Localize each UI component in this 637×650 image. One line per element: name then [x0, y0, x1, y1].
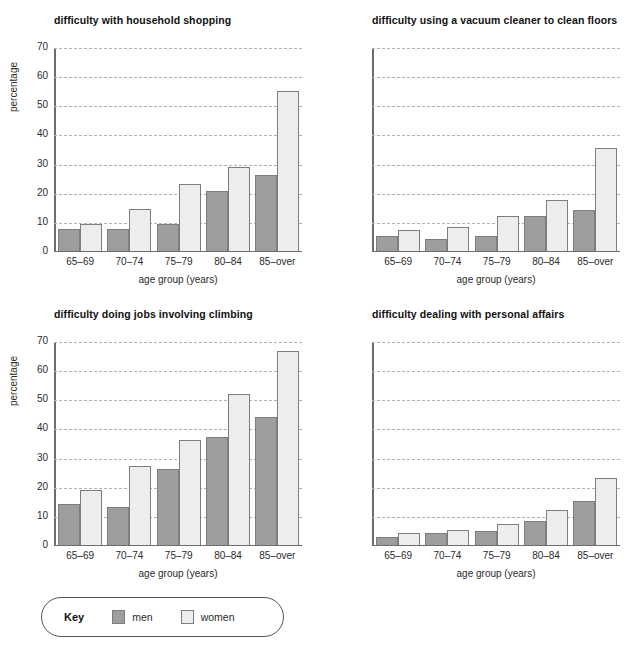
bar-women	[277, 91, 299, 250]
bar-women	[398, 533, 420, 545]
bar-group	[423, 342, 472, 545]
chart-panel-0: difficulty with household shoppingpercen…	[0, 0, 318, 294]
y-tick-label: 20	[37, 481, 48, 492]
key-label-men: men	[132, 611, 152, 623]
bar-women	[228, 394, 250, 544]
y-axis-label: percentage	[8, 356, 19, 406]
chart-title: difficulty doing jobs involving climbing	[54, 308, 253, 320]
x-tick-label: 85–over	[253, 256, 302, 267]
x-axis-label: age group (years)	[54, 274, 302, 285]
bar-women	[228, 167, 250, 251]
bar-group	[105, 342, 154, 545]
y-tick-label: 0	[42, 539, 48, 550]
key-swatch-women-icon	[181, 610, 194, 624]
bar-group	[154, 342, 203, 545]
x-tick-label: 80–84	[203, 550, 252, 561]
bar-group	[203, 48, 252, 251]
chart-grid: difficulty with household shoppingpercen…	[0, 0, 637, 588]
x-tick-label: 80–84	[521, 550, 570, 561]
x-tick-labels: 65–6970–7475–7980–8485–over	[374, 550, 621, 561]
plot-area: 010203040506070	[372, 342, 620, 546]
bar-women	[447, 227, 469, 250]
chart-panel-2: difficulty doing jobs involving climbing…	[0, 294, 318, 588]
bar-women	[497, 524, 519, 544]
chart-title: difficulty dealing with personal affairs	[372, 308, 564, 320]
bar-women	[595, 148, 617, 251]
x-tick-label: 75–79	[472, 256, 521, 267]
x-axis-label: age group (years)	[54, 568, 302, 579]
x-tick-label: 80–84	[521, 256, 570, 267]
x-axis-line	[54, 545, 302, 547]
chart-title: difficulty using a vacuum cleaner to cle…	[372, 14, 617, 26]
bar-group	[105, 48, 154, 251]
y-tick-label: 40	[37, 422, 48, 433]
bar-men	[573, 210, 595, 251]
bar-group	[253, 48, 302, 251]
bar-group	[203, 342, 252, 545]
bar-men	[524, 521, 546, 544]
chart-panel-1: difficulty using a vacuum cleaner to cle…	[318, 0, 636, 294]
x-tick-label: 65–69	[56, 550, 105, 561]
bar-men	[107, 507, 129, 545]
x-tick-label: 65–69	[56, 256, 105, 267]
bar-men	[524, 216, 546, 251]
bar-women	[398, 230, 420, 250]
bar-men	[58, 504, 80, 545]
bar-men	[157, 469, 179, 544]
bar-women	[595, 478, 617, 545]
key-swatch-men-icon	[112, 610, 125, 624]
plot-area: 010203040506070	[54, 342, 302, 546]
y-tick-label: 70	[37, 41, 48, 52]
chart-key-legend: Key men women	[41, 597, 284, 637]
bar-women	[129, 466, 151, 544]
bar-group	[521, 342, 570, 545]
bar-group	[253, 342, 302, 545]
x-tick-label: 85–over	[571, 256, 620, 267]
chart-panel-3: difficulty dealing with personal affairs…	[318, 294, 636, 588]
bar-groups	[374, 342, 621, 545]
y-tick-label: 60	[37, 364, 48, 375]
x-tick-label: 70–74	[105, 550, 154, 561]
bar-group	[374, 48, 423, 251]
y-axis-label: percentage	[8, 62, 19, 112]
plot-area: 010203040506070	[54, 48, 302, 252]
bar-group	[56, 342, 105, 545]
bar-men	[425, 239, 447, 251]
x-tick-label: 75–79	[154, 256, 203, 267]
y-tick-label: 40	[37, 128, 48, 139]
x-axis-line	[372, 251, 620, 253]
bar-men	[255, 417, 277, 544]
y-tick-label: 10	[37, 216, 48, 227]
x-axis-line	[372, 545, 620, 547]
bar-group	[521, 48, 570, 251]
bar-women	[277, 351, 299, 545]
x-tick-labels: 65–6970–7475–7980–8485–over	[56, 550, 303, 561]
x-tick-label: 75–79	[154, 550, 203, 561]
bar-women	[129, 209, 151, 251]
bar-women	[80, 490, 102, 545]
bar-men	[255, 175, 277, 250]
x-tick-label: 65–69	[374, 550, 423, 561]
key-label-women: women	[201, 611, 235, 623]
x-axis-line	[54, 251, 302, 253]
x-tick-label: 85–over	[571, 550, 620, 561]
bar-men	[376, 537, 398, 544]
x-tick-label: 85–over	[253, 550, 302, 561]
bar-women	[80, 224, 102, 250]
bar-group	[56, 48, 105, 251]
bar-group	[472, 48, 521, 251]
bar-women	[447, 530, 469, 544]
bar-women	[546, 510, 568, 545]
key-item-women: women	[181, 610, 235, 624]
bar-men	[157, 224, 179, 250]
x-tick-label: 80–84	[203, 256, 252, 267]
x-tick-label: 75–79	[472, 550, 521, 561]
x-tick-label: 65–69	[374, 256, 423, 267]
x-axis-label: age group (years)	[372, 274, 620, 285]
x-tick-label: 70–74	[105, 256, 154, 267]
bar-group	[571, 342, 620, 545]
bar-women	[497, 216, 519, 251]
bar-group	[154, 48, 203, 251]
x-tick-labels: 65–6970–7475–7980–8485–over	[56, 256, 303, 267]
bar-men	[58, 229, 80, 251]
